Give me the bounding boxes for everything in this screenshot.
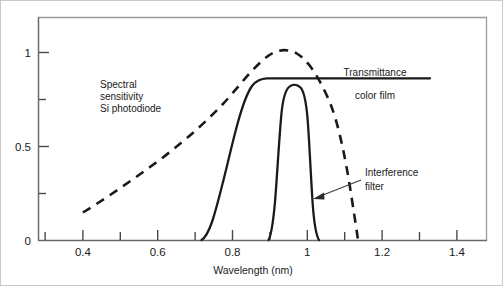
annotation-transmittance: Transmittance color film (344, 67, 407, 101)
x-tick-label-14: 1.4 (449, 246, 466, 258)
curve-interference-filter (269, 85, 320, 240)
annotation-transmittance-line-2: color film (355, 90, 395, 101)
y-axis-ticks (39, 53, 49, 194)
annotation-interference-arrowhead (313, 193, 325, 200)
x-tick-label-12: 1.2 (374, 246, 390, 258)
annotation-interference-filter: Interference filter (313, 167, 419, 200)
annotation-spectral-line-1: Spectral (100, 79, 137, 90)
annotation-transmittance-line-1: Transmittance (344, 67, 407, 78)
annotation-interference-leader-line (318, 180, 361, 197)
annotation-interference-line-2: filter (365, 181, 385, 192)
chart-canvas: 1 0.5 0 0.4 0.6 0.8 (0, 0, 504, 287)
x-tick-label-08: 0.8 (225, 246, 241, 258)
annotation-spectral-line-2: sensitivity (100, 91, 143, 102)
x-axis-title: Wavelength (nm) (213, 264, 293, 276)
y-tick-label-1: 1 (25, 47, 31, 59)
x-tick-label-04: 0.4 (75, 246, 92, 258)
chart-page: 1 0.5 0 0.4 0.6 0.8 (0, 0, 504, 287)
annotation-spectral-sensitivity: Spectral sensitivity Si photodiode (100, 79, 162, 114)
annotation-interference-line-1: Interference (365, 167, 419, 178)
x-tick-label-06: 0.6 (150, 246, 166, 258)
x-axis-ticks (45, 230, 457, 240)
annotation-spectral-line-3: Si photodiode (100, 103, 162, 114)
y-tick-label-05: 0.5 (15, 141, 31, 153)
curve-transmittance-color-film (202, 78, 431, 240)
y-tick-label-0: 0 (25, 235, 31, 247)
x-tick-label-1: 1 (304, 246, 310, 258)
spectral-response-figure: 1 0.5 0 0.4 0.6 0.8 (0, 0, 504, 287)
